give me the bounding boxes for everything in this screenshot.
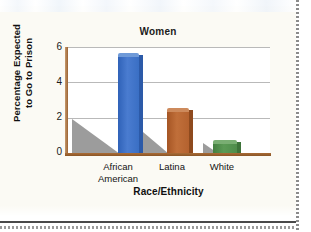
x-category-label-african-american-line1: African — [103, 161, 133, 172]
x-category-label-white: White — [200, 161, 244, 173]
page-bottom-fade — [0, 205, 296, 221]
gridline-6 — [67, 47, 270, 48]
y-tick-label-6: 6 — [46, 42, 62, 52]
bar-top-white — [213, 140, 237, 144]
bar-latina[interactable] — [167, 111, 189, 154]
plot-area — [67, 47, 270, 154]
page-bottom-rule — [0, 221, 296, 223]
bar-face-latina — [167, 111, 189, 154]
x-axis-line — [65, 153, 271, 156]
x-category-label-african-american: African American — [88, 161, 148, 185]
gridline-4 — [67, 82, 270, 83]
bar-side-latina — [189, 110, 193, 154]
scanned-page: Women Percentage Expected to Go to Priso… — [0, 0, 311, 232]
y-tick-label-2: 2 — [46, 112, 62, 122]
y-axis-line — [65, 47, 68, 156]
bar-side-african-american — [139, 55, 143, 154]
x-category-label-latina: Latina — [150, 161, 194, 173]
page-right-dotted-edge — [296, 0, 299, 232]
bar-shadow-african-american — [72, 119, 120, 154]
bar-chart-figure: Women Percentage Expected to Go to Priso… — [0, 6, 296, 206]
bar-top-african-american — [118, 53, 139, 57]
bar-top-latina — [167, 108, 189, 112]
bar-face-african-american — [118, 56, 139, 154]
bar-shadow-latina — [143, 132, 169, 154]
y-tick-label-0: 0 — [46, 147, 62, 157]
y-tick-label-4: 4 — [46, 77, 62, 87]
x-axis-title: Race/Ethnicity — [67, 186, 270, 197]
bar-african-american[interactable] — [118, 56, 139, 154]
page-bottom-dotted-edge — [0, 226, 296, 229]
x-category-label-african-american-line2: American — [98, 173, 138, 184]
